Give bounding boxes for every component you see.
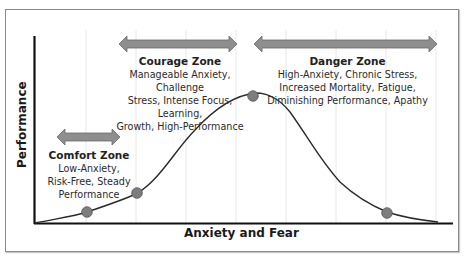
comfort-zone-title: Comfort Zone	[42, 149, 136, 162]
danger-zone-line-1: High-Anxiety, Chronic Stress,	[265, 68, 430, 81]
courage-zone-line-3: Growth, High-Performance	[105, 120, 255, 133]
comfort-zone-line-1: Low-Anxiety,	[42, 162, 136, 175]
comfort-zone-line-2: Risk-Free, Steady	[42, 175, 136, 188]
courage-zone-line-1: Manageable Anxiety, Challenge	[105, 68, 255, 94]
comfort-zone-line-3: Performance	[42, 188, 136, 201]
x-axis-label: Anxiety and Fear	[184, 226, 299, 240]
danger-zone-label: Danger Zone High-Anxiety, Chronic Stress…	[265, 55, 430, 107]
danger-point-icon	[382, 208, 393, 219]
courage-zone-label: Courage Zone Manageable Anxiety, Challen…	[105, 55, 255, 133]
danger-zone-line-3: Diminishing Performance, Apathy	[265, 94, 430, 107]
danger-zone-line-2: Increased Mortality, Fatigue,	[265, 81, 430, 94]
courage-zone-title: Courage Zone	[105, 55, 255, 68]
danger-zone-title: Danger Zone	[265, 55, 430, 68]
comfort-zone-label: Comfort Zone Low-Anxiety, Risk-Free, Ste…	[42, 149, 136, 201]
y-axis-label: Performance	[15, 81, 29, 168]
courage-zone-arrow-icon	[119, 36, 237, 52]
danger-zone-arrow-icon	[254, 36, 437, 52]
comfort-point-icon	[82, 207, 93, 218]
courage-zone-line-2: Stress, Intense Focus, Learning,	[105, 94, 255, 120]
